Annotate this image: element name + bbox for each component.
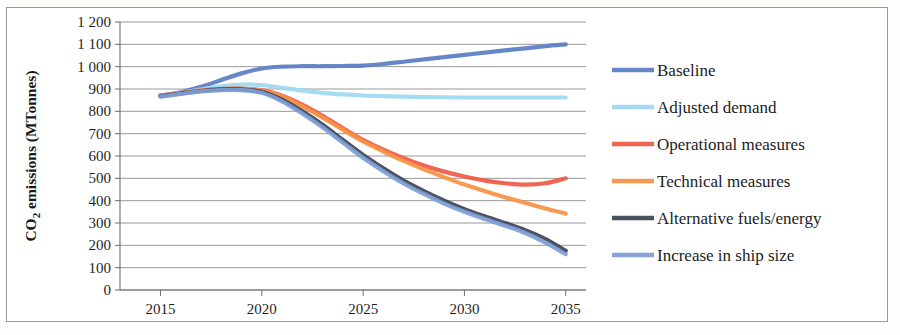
y-axis-tick-label: 600 <box>89 148 112 164</box>
legend-label: Increase in ship size <box>657 246 794 265</box>
x-axis-tick-label: 2035 <box>551 301 581 317</box>
legend-label: Technical measures <box>657 172 790 191</box>
y-axis-tick-label: 300 <box>89 215 112 231</box>
legend-item-adjusted-demand[interactable]: Adjusted demand <box>612 98 777 117</box>
y-axis-title-text: CO2 emissions (MTonnes) <box>22 70 42 241</box>
series-line-operational-measures <box>161 89 566 185</box>
y-axis-tick-label: 800 <box>89 103 112 119</box>
legend-item-operational-measures[interactable]: Operational measures <box>612 135 805 154</box>
y-axis-tick-label: 200 <box>89 237 112 253</box>
x-axis-tick-label: 2030 <box>449 301 479 317</box>
legend-label: Operational measures <box>657 135 805 154</box>
y-axis-tick-label: 500 <box>89 170 112 186</box>
y-axis-tick-label: 700 <box>89 126 112 142</box>
x-axis-tick-label: 2025 <box>348 301 378 317</box>
legend-label: Baseline <box>657 61 716 80</box>
series-line-increase-in-ship-size <box>161 90 566 254</box>
legend-item-alternative-fuels-energy[interactable]: Alternative fuels/energy <box>612 209 822 228</box>
y-axis-tick-label: 0 <box>104 282 112 298</box>
legend-label: Alternative fuels/energy <box>657 209 822 228</box>
y-axis-tick-label: 400 <box>89 193 112 209</box>
y-axis-tick-label: 1 200 <box>77 14 111 30</box>
x-axis-tick-label: 2015 <box>146 301 176 317</box>
line-chart: 1 2001 1001 0009008007006005004003002001… <box>0 0 900 335</box>
legend-item-baseline[interactable]: Baseline <box>612 61 716 80</box>
y-axis-tick-label: 900 <box>89 81 112 97</box>
legend-item-technical-measures[interactable]: Technical measures <box>612 172 790 191</box>
y-axis-tick-label: 100 <box>89 260 112 276</box>
y-axis-tick-label: 1 000 <box>77 59 111 75</box>
x-axis-tick-label: 2020 <box>247 301 277 317</box>
legend-item-increase-in-ship-size[interactable]: Increase in ship size <box>612 246 794 265</box>
series-line-technical-measures <box>161 89 566 214</box>
y-axis-tick-label: 1 100 <box>77 36 111 52</box>
y-axis-title: CO2 emissions (MTonnes) <box>22 70 42 241</box>
chart-figure: 1 2001 1001 0009008007006005004003002001… <box>0 0 900 335</box>
legend-label: Adjusted demand <box>657 98 777 117</box>
